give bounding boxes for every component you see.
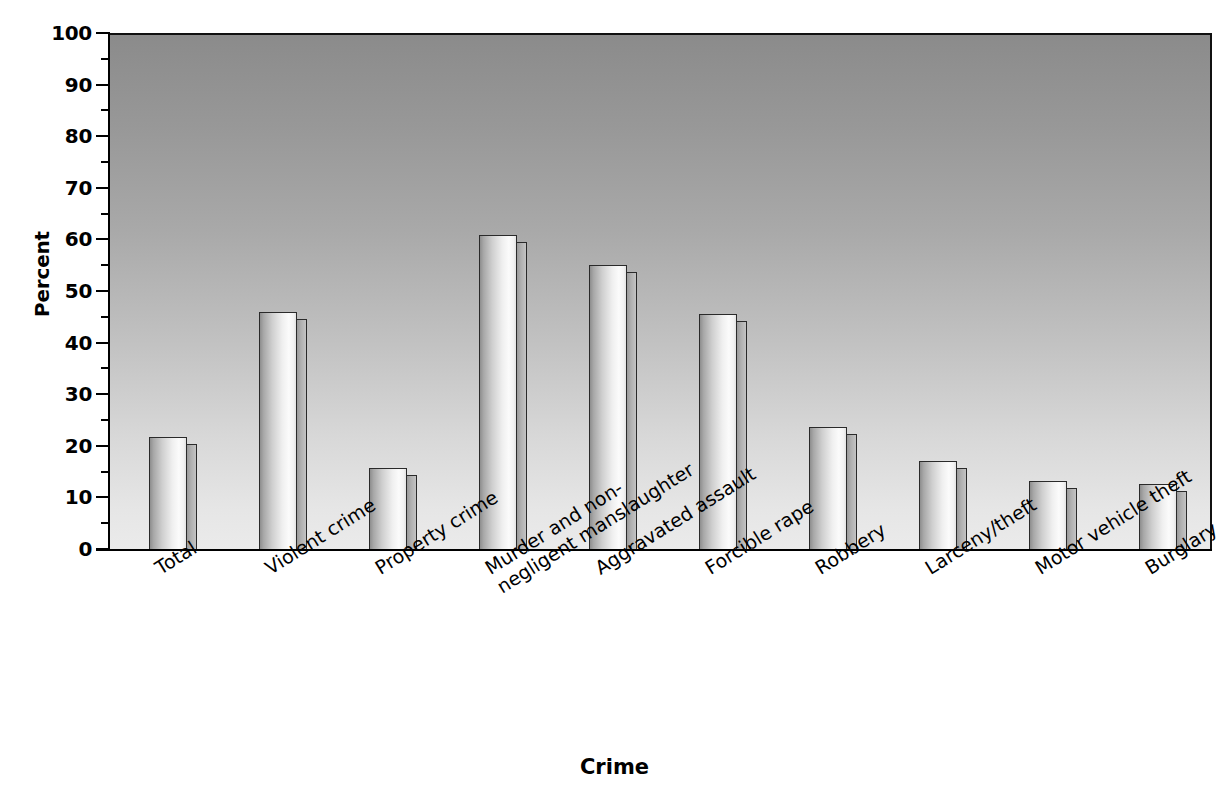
y-axis-minor-tick	[101, 316, 110, 318]
y-axis-tick-label: 100	[51, 21, 92, 45]
y-axis-minor-tick	[101, 161, 110, 163]
bar	[149, 437, 197, 551]
y-axis-minor-tick	[101, 58, 110, 60]
y-axis-tick-label: 80	[65, 124, 92, 148]
x-axis-title: Crime	[0, 755, 1229, 779]
y-axis-major-tick	[96, 135, 110, 137]
y-axis-tick-label: 20	[65, 434, 92, 458]
y-axis: 1009080706050403020100	[96, 33, 110, 549]
y-axis-tick-label: 30	[65, 382, 92, 406]
y-axis-tick-label: 40	[65, 331, 92, 355]
bar-face	[699, 314, 737, 551]
y-axis-major-tick	[96, 393, 110, 395]
y-axis-major-tick	[96, 342, 110, 344]
bar-chart: Percent 1009080706050403020100 Crime Tot…	[0, 0, 1229, 802]
y-axis-major-tick	[96, 187, 110, 189]
y-axis-tick-label: 50	[65, 279, 92, 303]
bar-side-panel	[737, 321, 747, 551]
y-axis-tick-label: 90	[65, 73, 92, 97]
bar-face	[259, 312, 297, 551]
y-axis-major-tick	[96, 445, 110, 447]
y-axis-tick-label: 60	[65, 227, 92, 251]
bar-face	[919, 461, 957, 551]
bar-side-panel	[187, 444, 197, 551]
y-axis-major-tick	[96, 290, 110, 292]
bar-face	[809, 427, 847, 551]
y-axis-major-tick	[96, 32, 110, 34]
y-axis-minor-tick	[101, 522, 110, 524]
y-axis-minor-tick	[101, 471, 110, 473]
y-axis-minor-tick	[101, 213, 110, 215]
bar	[259, 312, 307, 551]
y-axis-minor-tick	[101, 264, 110, 266]
bar-side-panel	[517, 242, 527, 551]
y-axis-major-tick	[96, 238, 110, 240]
bar	[699, 314, 747, 551]
y-axis-title: Percent	[30, 214, 54, 334]
y-axis-tick-label: 70	[65, 176, 92, 200]
y-axis-tick-label: 0	[78, 537, 92, 561]
y-axis-major-tick	[96, 496, 110, 498]
bar-face	[149, 437, 187, 551]
bar-side-panel	[297, 319, 307, 551]
y-axis-minor-tick	[101, 109, 110, 111]
y-axis-minor-tick	[101, 367, 110, 369]
y-axis-tick-label: 10	[65, 485, 92, 509]
y-axis-minor-tick	[101, 419, 110, 421]
y-axis-major-tick	[96, 84, 110, 86]
bar	[809, 427, 857, 551]
